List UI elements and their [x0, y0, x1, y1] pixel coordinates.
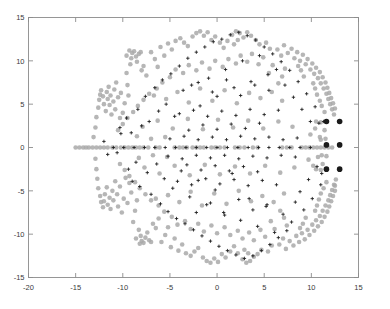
y-axis-tick-labels: -15-10-5051015: [14, 13, 25, 282]
data-point-circle: [236, 189, 241, 194]
data-point-circle: [176, 248, 181, 253]
data-point-circle: [125, 83, 130, 88]
data-point-circle: [163, 135, 168, 140]
data-point-circle: [245, 30, 250, 35]
data-point-circle: [124, 53, 129, 58]
data-point-circle: [149, 198, 154, 203]
data-point-circle: [188, 254, 193, 259]
data-point-circle: [251, 145, 256, 150]
data-point-plus: [263, 45, 266, 48]
data-point-circle: [157, 145, 162, 150]
data-point-circle: [213, 59, 218, 64]
data-point-circle: [318, 168, 323, 173]
data-point-circle: [181, 71, 186, 76]
data-point-circle: [198, 86, 203, 91]
data-point-circle: [173, 67, 178, 72]
data-point-circle: [164, 97, 169, 102]
data-point-circle: [219, 252, 224, 257]
data-point-plus: [294, 200, 297, 203]
data-point-circle: [312, 72, 317, 77]
data-point-circle: [321, 186, 326, 191]
data-point-plus: [258, 122, 261, 125]
data-point-plus: [190, 183, 193, 186]
data-point-circle: [216, 260, 221, 265]
data-point-circle: [319, 220, 324, 225]
data-point-circle: [281, 236, 286, 241]
x-tick-label: 0: [215, 283, 219, 292]
data-point-circle: [240, 236, 245, 241]
x-tick-label: -5: [167, 283, 174, 292]
data-point-plus: [246, 146, 249, 149]
data-point-plus: [200, 234, 203, 237]
data-point-plus: [249, 80, 252, 83]
data-point-plus: [275, 183, 278, 186]
data-point-circle: [124, 71, 129, 76]
data-point-circle: [125, 201, 130, 206]
data-point-circle: [99, 88, 104, 93]
data-point-plus: [246, 34, 249, 37]
x-tick-label: -15: [70, 283, 81, 292]
data-point-circle: [218, 172, 223, 177]
data-point-plus: [182, 135, 185, 138]
y-tick-label: 5: [20, 100, 24, 109]
data-point-circle: [165, 155, 170, 160]
data-point-circle: [203, 163, 208, 168]
data-point-plus: [213, 164, 216, 167]
data-point-circle: [256, 62, 261, 67]
data-point-circle: [103, 192, 108, 197]
data-point-plus: [230, 172, 233, 175]
data-point-circle: [270, 63, 275, 68]
data-point-circle: [180, 242, 185, 247]
data-point-plus: [188, 195, 191, 198]
data-point-plus: [296, 80, 299, 83]
data-point-circle: [242, 247, 247, 252]
data-point-circle: [305, 228, 310, 233]
data-point-circle: [98, 194, 103, 199]
data-point-circle: [245, 59, 250, 64]
data-point-circle: [122, 168, 127, 173]
data-point-circle: [118, 184, 123, 189]
data-point-circle: [278, 170, 283, 175]
data-point-circle: [113, 107, 118, 112]
data-point-circle: [192, 249, 197, 254]
data-point-plus: [277, 236, 280, 239]
data-point-circle: [196, 246, 201, 251]
data-point-circle: [317, 197, 322, 202]
data-point-circle: [202, 33, 207, 38]
data-point-circle: [236, 228, 241, 233]
data-point-circle: [108, 207, 113, 212]
data-point-plus: [180, 157, 183, 160]
data-point-circle: [250, 52, 255, 57]
data-series-layer: [73, 29, 342, 265]
data-point-plus: [279, 60, 282, 63]
data-point-circle: [212, 256, 217, 261]
data-point-plus: [294, 155, 297, 158]
data-point-circle: [266, 249, 271, 254]
y-tick-label: -15: [14, 273, 25, 282]
data-point-circle: [333, 106, 338, 111]
data-point-circle: [333, 189, 338, 194]
data-point-circle: [248, 171, 253, 176]
data-point-plus: [147, 120, 150, 123]
data-point-circle: [224, 202, 229, 207]
data-point-plus: [267, 135, 270, 138]
data-point-circle: [116, 204, 121, 209]
data-point-plus: [197, 81, 200, 84]
data-point-plus: [102, 140, 105, 143]
data-point-circle: [318, 191, 323, 196]
data-point-circle: [196, 221, 201, 226]
data-point-circle: [249, 33, 254, 38]
data-point-circle: [334, 177, 339, 182]
data-point-circle: [318, 81, 323, 86]
data-point-circle: [305, 57, 310, 62]
data-point-circle: [327, 204, 332, 209]
data-point-circle: [141, 64, 146, 69]
data-point-circle: [208, 260, 213, 265]
data-point-circle: [329, 199, 334, 204]
data-point-circle: [324, 142, 330, 148]
data-point-plus: [220, 109, 223, 112]
data-point-circle: [222, 88, 227, 93]
data-point-plus: [209, 239, 212, 242]
data-point-circle: [149, 137, 154, 142]
data-point-circle: [190, 34, 195, 39]
